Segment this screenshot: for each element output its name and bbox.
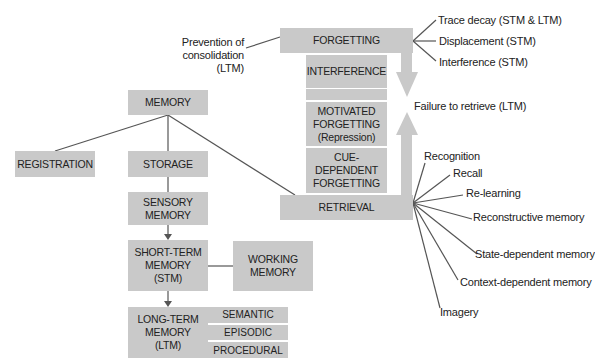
retrieval-box: RETRIEVAL: [280, 195, 413, 220]
reconstructive-label: Reconstructive memory: [473, 211, 584, 224]
memory-label: MEMORY: [145, 96, 191, 109]
cue-dependent-label: CUE-DEPENDENT FORGETTING: [309, 151, 384, 190]
context-dependent-label: Context-dependent memory: [460, 276, 592, 289]
trace-decay-label: Trace decay (STM & LTM): [438, 14, 562, 27]
episodic-label: EPISODIC: [224, 327, 272, 338]
ltm-box: LONG-TERM MEMORY (LTM): [128, 307, 208, 358]
displacement-label: Displacement (STM): [439, 35, 536, 48]
ltm-label: LONG-TERM MEMORY (LTM): [134, 313, 202, 352]
imagery-label: Imagery: [440, 306, 478, 319]
working-memory-label: WORKING MEMORY: [243, 253, 303, 279]
motivated-forgetting-label: MOTIVATED FORGETTING (Repression): [310, 105, 383, 144]
interference-band: [306, 89, 387, 100]
recognition-label: Recognition: [424, 150, 480, 163]
sensory-memory-label: SENSORY MEMORY: [140, 196, 196, 222]
relearning-label: Re-learning: [466, 187, 521, 200]
procedural-label: PROCEDURAL: [213, 345, 282, 356]
semantic-box: SEMANTIC: [208, 307, 288, 323]
motivated-forgetting-box: MOTIVATED FORGETTING (Repression): [306, 102, 387, 146]
stm-label: SHORT-TERM MEMORY (STM): [134, 246, 202, 285]
storage-label: STORAGE: [143, 158, 193, 171]
cue-dependent-box: CUE-DEPENDENT FORGETTING: [306, 148, 387, 193]
sensory-memory-box: SENSORY MEMORY: [128, 192, 208, 225]
storage-box: STORAGE: [128, 151, 208, 177]
registration-label: REGISTRATION: [17, 158, 93, 171]
memory-box: MEMORY: [128, 90, 208, 115]
semantic-label: SEMANTIC: [222, 309, 274, 320]
forgetting-label: FORGETTING: [313, 34, 380, 47]
registration-box: REGISTRATION: [15, 151, 95, 177]
episodic-box: EPISODIC: [208, 325, 288, 341]
stm-box: SHORT-TERM MEMORY (STM): [128, 240, 208, 291]
procedural-box: PROCEDURAL: [208, 342, 288, 358]
working-memory-box: WORKING MEMORY: [233, 241, 313, 291]
state-dependent-label: State-dependent memory: [475, 248, 595, 261]
interference-box: INTERFERENCE: [306, 55, 387, 88]
prevention-label: Prevention of consolidation (LTM): [160, 36, 244, 75]
interference-stm-label: Interference (STM): [439, 56, 528, 69]
recall-label: Recall: [453, 167, 482, 180]
retrieval-label: RETRIEVAL: [319, 201, 375, 214]
forgetting-box: FORGETTING: [280, 28, 413, 53]
interference-label: INTERFERENCE: [307, 65, 386, 78]
failure-to-retrieve-label: Failure to retrieve (LTM): [414, 100, 526, 113]
